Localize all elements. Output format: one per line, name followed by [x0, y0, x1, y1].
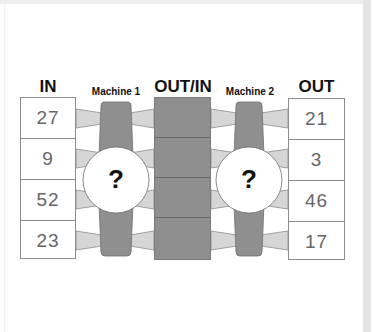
out-in-cell	[155, 218, 210, 258]
out-cell: 3	[289, 140, 344, 181]
in-cell: 23	[21, 221, 75, 261]
in-cell: 52	[21, 180, 75, 221]
out-cell: 46	[289, 181, 344, 222]
out-in-cell	[155, 138, 210, 178]
out-in-column	[154, 97, 211, 260]
in-column: 27 9 52 23	[20, 97, 76, 259]
machine-2-unknown: ?	[229, 164, 269, 195]
out-column: 21 3 46 17	[288, 98, 345, 260]
out-in-cell	[155, 178, 210, 218]
in-cell: 27	[21, 98, 75, 139]
out-cell: 17	[289, 222, 344, 262]
out-cell: 21	[289, 99, 344, 140]
machine-1-unknown: ?	[96, 164, 136, 195]
in-cell: 9	[21, 139, 75, 180]
out-in-cell	[155, 98, 210, 138]
